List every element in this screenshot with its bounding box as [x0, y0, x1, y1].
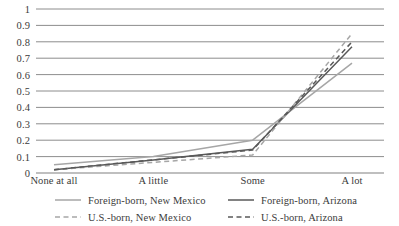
series-line-0 — [54, 63, 352, 165]
plot-area — [36, 9, 384, 173]
legend-label: Foreign-born, New Mexico — [88, 195, 206, 206]
series-line-1 — [54, 47, 352, 170]
series-line-2 — [54, 34, 352, 170]
legend-line-swatch — [228, 212, 254, 222]
y-tick-label: 0.7 — [17, 53, 30, 64]
x-axis-tick-labels: None at allA littleSomeA lot — [36, 175, 384, 193]
y-tick-label: 1 — [25, 4, 30, 15]
y-tick-label: 0.8 — [17, 36, 30, 47]
y-tick-label: 0.9 — [17, 20, 30, 31]
legend-item[interactable]: U.S.-born, New Mexico — [55, 210, 191, 224]
legend-line-swatch — [55, 212, 81, 222]
x-tick-label: A little — [138, 175, 168, 186]
y-axis-tick-labels: 10.90.80.70.60.50.40.30.20.10 — [0, 0, 34, 180]
x-tick-label: Some — [240, 175, 264, 186]
y-tick-label: 0.4 — [17, 102, 30, 113]
chart-legend: Foreign-born, New MexicoForeign-born, Ar… — [0, 193, 399, 226]
legend-line-swatch — [228, 195, 254, 205]
legend-item[interactable]: Foreign-born, Arizona — [228, 193, 357, 207]
x-tick-label: A lot — [341, 175, 362, 186]
y-tick-label: 0.3 — [17, 118, 30, 129]
line-chart: 10.90.80.70.60.50.40.30.20.10 None at al… — [0, 0, 399, 226]
legend-label: Foreign-born, Arizona — [261, 195, 357, 206]
y-tick-label: 0 — [25, 168, 30, 179]
data-series-group — [54, 34, 352, 170]
y-tick-label: 0.2 — [17, 135, 30, 146]
x-tick-label: None at all — [30, 175, 77, 186]
legend-label: U.S.-born, Arizona — [261, 212, 343, 223]
plot-svg — [36, 9, 384, 173]
series-line-3 — [54, 42, 352, 170]
gridlines — [36, 9, 384, 173]
legend-item[interactable]: U.S.-born, Arizona — [228, 210, 343, 224]
y-tick-label: 0.6 — [17, 69, 30, 80]
legend-item[interactable]: Foreign-born, New Mexico — [55, 193, 206, 207]
y-tick-label: 0.5 — [17, 86, 30, 97]
legend-line-swatch — [55, 195, 81, 205]
legend-label: U.S.-born, New Mexico — [88, 212, 191, 223]
y-tick-label: 0.1 — [17, 151, 30, 162]
